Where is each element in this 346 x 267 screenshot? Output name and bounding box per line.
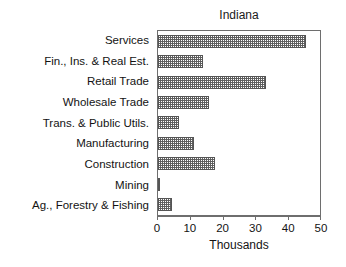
y-axis-label-row: Wholesale Trade: [0, 92, 152, 113]
x-axis-tick-labels: 01020304050: [157, 221, 321, 237]
bar-row: [158, 72, 320, 92]
x-axis-tick: [288, 216, 289, 220]
x-axis-tick: [157, 216, 158, 220]
bar-row: [158, 92, 320, 112]
y-axis-label-finance-insurance-real-estate: Fin., Ins. & Real Est.: [44, 55, 152, 68]
x-axis-tick-label: 50: [315, 221, 328, 235]
y-axis-label-manufacturing: Manufacturing: [76, 137, 152, 150]
y-axis-label-retail-trade: Retail Trade: [87, 75, 152, 88]
bar-row: [158, 154, 320, 174]
y-axis-label-wholesale-trade: Wholesale Trade: [63, 96, 152, 109]
x-axis-tick-label: 40: [282, 221, 295, 235]
y-axis-label-row: Mining: [0, 175, 152, 196]
x-axis-tick-label: 0: [154, 221, 160, 235]
y-axis-label-services: Services: [105, 34, 152, 47]
bar-row: [158, 31, 320, 51]
x-axis-tick-label: 10: [183, 221, 196, 235]
x-axis-tick: [190, 216, 191, 220]
y-axis-label-row: Manufacturing: [0, 133, 152, 154]
x-axis-title: Thousands: [157, 238, 321, 253]
x-axis-tick-label: 20: [216, 221, 229, 235]
bars-layer: [158, 31, 320, 215]
y-axis-label-row: Ag., Forestry & Fishing: [0, 195, 152, 216]
bar-row: [158, 195, 320, 215]
x-axis-tick: [320, 216, 321, 220]
bar-row: [158, 133, 320, 153]
x-axis-tick-label: 30: [249, 221, 262, 235]
y-axis-label-row: Construction: [0, 154, 152, 175]
y-axis-label-mining: Mining: [115, 179, 152, 192]
bar-chart: Indiana Services Fin., Ins. & Real Est. …: [0, 0, 346, 267]
bar-row: [158, 113, 320, 133]
bar-transportation-public-utilities: [158, 116, 179, 129]
bar-row: [158, 51, 320, 71]
chart-title: Indiana: [157, 8, 321, 23]
bar-agriculture-forestry-fishing: [158, 198, 172, 211]
y-axis-label-row: Trans. & Public Utils.: [0, 113, 152, 134]
bar-row: [158, 174, 320, 194]
y-axis-label-row: Retail Trade: [0, 71, 152, 92]
y-axis-label-row: Services: [0, 30, 152, 51]
x-axis-tick: [223, 216, 224, 220]
y-axis-label-transportation-public-utilities: Trans. & Public Utils.: [43, 117, 152, 130]
bar-manufacturing: [158, 137, 194, 150]
y-axis-label-row: Fin., Ins. & Real Est.: [0, 51, 152, 72]
plot-area: [157, 30, 321, 216]
bar-finance-insurance-real-estate: [158, 55, 203, 68]
y-axis-category-labels: Services Fin., Ins. & Real Est. Retail T…: [0, 30, 152, 216]
x-axis-tick: [255, 216, 256, 220]
y-axis-label-construction: Construction: [84, 158, 152, 171]
bar-retail-trade: [158, 76, 266, 89]
bar-mining: [158, 178, 160, 191]
bar-services: [158, 35, 306, 48]
bar-wholesale-trade: [158, 96, 209, 109]
y-axis-label-agriculture-forestry-fishing: Ag., Forestry & Fishing: [32, 199, 152, 212]
bar-construction: [158, 157, 215, 170]
